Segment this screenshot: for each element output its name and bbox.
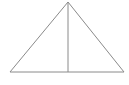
triangle-diagram-svg xyxy=(0,0,129,85)
figure-canvas xyxy=(0,0,129,85)
